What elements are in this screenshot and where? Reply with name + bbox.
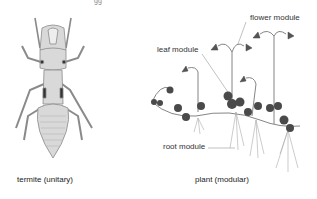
figure: gg bbox=[0, 0, 317, 199]
leaf-module-label: leaf module bbox=[157, 46, 198, 54]
plant-illustration bbox=[0, 0, 317, 199]
root-module-label: root module bbox=[163, 143, 205, 151]
flower-module-label: flower module bbox=[250, 14, 300, 22]
termite-caption: termite (unitary) bbox=[17, 176, 73, 184]
plant-caption: plant (modular) bbox=[195, 176, 249, 184]
